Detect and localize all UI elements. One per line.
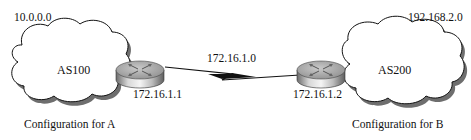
left-network-address: 10.0.0.0 <box>14 12 51 24</box>
right-caption: Configuration for B <box>352 119 443 131</box>
router-b-icon <box>297 61 345 88</box>
link-network-address: 172.16.1.0 <box>207 53 256 65</box>
left-as-label: AS100 <box>57 64 90 76</box>
right-network-address: 192.168.2.0 <box>408 12 463 24</box>
cloud-as100-icon <box>12 18 133 106</box>
network-diagram: 10.0.0.0 AS100 172.16.1.1 Configuration … <box>0 0 471 140</box>
right-router-ip: 172.16.1.2 <box>293 89 342 101</box>
serial-link-icon <box>165 67 300 80</box>
router-a-icon <box>116 61 164 88</box>
left-caption: Configuration for A <box>24 119 115 131</box>
cloud-as200-icon <box>342 16 467 108</box>
left-router-ip: 172.16.1.1 <box>133 89 182 101</box>
right-as-label: AS200 <box>378 64 411 76</box>
